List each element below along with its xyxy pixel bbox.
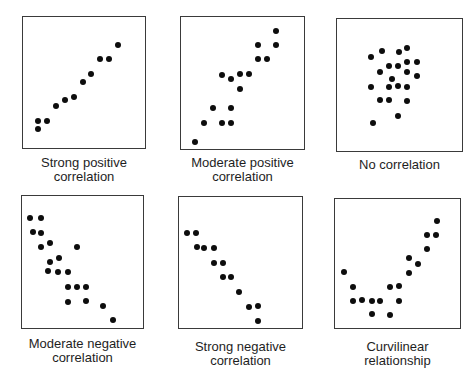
caption-line-1: Strong negative (178, 340, 303, 354)
data-point (404, 98, 410, 104)
data-point (236, 289, 242, 295)
data-point (379, 48, 385, 54)
data-point (350, 298, 356, 304)
data-point (255, 42, 261, 48)
data-point (194, 244, 200, 250)
data-point (211, 260, 217, 266)
data-point (369, 298, 375, 304)
data-point (184, 230, 190, 236)
data-point (404, 84, 410, 90)
data-point (30, 229, 36, 235)
caption-line-1: Strong positive (22, 156, 146, 170)
data-point (377, 298, 383, 304)
data-point (414, 73, 420, 79)
data-point (211, 245, 217, 251)
caption-line-2: correlation (178, 354, 303, 368)
data-point (62, 97, 68, 103)
data-point (192, 139, 198, 145)
data-point (273, 28, 279, 34)
data-point (370, 120, 376, 126)
data-point (387, 284, 393, 290)
data-point (414, 59, 420, 65)
data-point (396, 298, 402, 304)
data-point (350, 284, 356, 290)
data-point (38, 215, 44, 221)
caption-line-1: Moderate positive (180, 156, 305, 170)
data-point (273, 42, 279, 48)
data-point (396, 49, 402, 55)
data-point (74, 284, 80, 290)
data-point (404, 69, 410, 75)
data-point (424, 246, 430, 252)
caption-moderate-positive: Moderate positive correlation (180, 156, 305, 184)
data-point (193, 230, 199, 236)
data-point (396, 283, 402, 289)
caption-line-1: Moderate negative (21, 337, 144, 351)
data-point (255, 318, 261, 324)
data-point (65, 284, 71, 290)
data-point (219, 72, 225, 78)
data-point (406, 255, 412, 261)
caption-moderate-negative: Moderate negative correlation (21, 337, 144, 365)
data-point (201, 120, 207, 126)
data-point (47, 240, 53, 246)
caption-line-2: correlation (180, 170, 305, 184)
data-point (237, 86, 243, 92)
caption-strong-positive: Strong positive correlation (22, 156, 146, 184)
data-point (433, 232, 439, 238)
plot-moderate-negative (21, 195, 144, 329)
data-point (56, 255, 62, 261)
data-point (377, 69, 383, 75)
data-point (35, 126, 41, 132)
data-point (83, 284, 89, 290)
data-point (53, 103, 59, 109)
data-point (106, 56, 112, 62)
caption-line-2: correlation (22, 170, 146, 184)
data-point (386, 84, 392, 90)
data-point (434, 218, 440, 224)
data-point (395, 83, 401, 89)
data-point (115, 42, 121, 48)
data-point (406, 270, 412, 276)
data-point (38, 230, 44, 236)
data-point (424, 232, 430, 238)
data-point (386, 63, 392, 69)
data-point (100, 303, 106, 309)
data-point (228, 105, 234, 111)
data-point (210, 105, 216, 111)
data-point (219, 120, 225, 126)
data-point (80, 79, 86, 85)
data-point (368, 84, 374, 90)
data-point (369, 311, 375, 317)
plot-curvilinear (334, 198, 461, 329)
data-point (237, 71, 243, 77)
data-point (255, 303, 261, 309)
data-point (83, 298, 89, 304)
data-point (228, 120, 234, 126)
data-point (74, 244, 80, 250)
data-point (220, 274, 226, 280)
data-point (246, 71, 252, 77)
data-point (255, 56, 261, 62)
data-point (404, 59, 410, 65)
data-point (264, 56, 270, 62)
data-point (415, 261, 421, 267)
plot-strong-positive (22, 16, 146, 149)
data-point (246, 304, 252, 310)
data-point (47, 259, 53, 265)
data-point (201, 245, 207, 251)
data-point (368, 54, 374, 60)
data-point (44, 118, 50, 124)
caption-line-1: No correlation (336, 158, 463, 172)
data-point (71, 94, 77, 100)
plot-moderate-positive (180, 16, 305, 150)
data-point (341, 269, 347, 275)
data-point (395, 63, 401, 69)
caption-strong-negative: Strong negative correlation (178, 340, 303, 368)
data-point (55, 269, 61, 275)
data-point (65, 299, 71, 305)
data-point (387, 312, 393, 318)
data-point (97, 56, 103, 62)
data-point (65, 269, 71, 275)
data-point (220, 260, 226, 266)
